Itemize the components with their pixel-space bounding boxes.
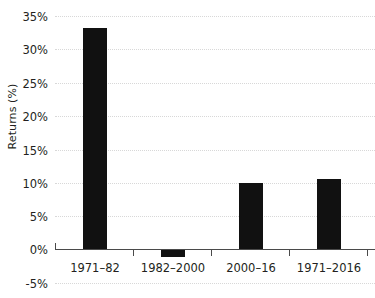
plot-area: 35% 30% 25% 20% 15% 10% 5% 0% -5% 1971–8…: [55, 0, 375, 298]
x-tick-4: [367, 249, 368, 256]
y-tick-label-10: 10%: [2, 177, 48, 191]
bar-1982-2000: [161, 249, 185, 257]
x-tick-1: [133, 249, 134, 256]
bar-chart: Returns (%) 35% 30% 25% 20% 15% 10% 5% 0…: [0, 0, 375, 298]
y-tick-label-minus5: -5%: [2, 277, 48, 291]
y-tick-label-20: 20%: [2, 110, 48, 124]
y-tick-label-0: 0%: [2, 243, 48, 257]
x-tick-3: [289, 249, 290, 256]
y-tick-label-30: 30%: [2, 43, 48, 57]
x-axis-line: [55, 249, 375, 250]
y-tick-label-25: 25%: [2, 77, 48, 91]
y-tick-label-15: 15%: [2, 144, 48, 158]
x-tick-2: [211, 249, 212, 256]
y-tick-label-5: 5%: [2, 210, 48, 224]
gridline-minus5: [55, 283, 375, 284]
x-tick-0: [55, 243, 56, 250]
bar-1971-82: [83, 28, 107, 249]
x-tick-label-4: 1971–2016: [279, 261, 375, 275]
gridline-35: [55, 16, 375, 17]
bar-1971-2016: [317, 179, 341, 249]
y-tick-label-35: 35%: [2, 10, 48, 24]
bar-2000-16: [239, 183, 263, 249]
